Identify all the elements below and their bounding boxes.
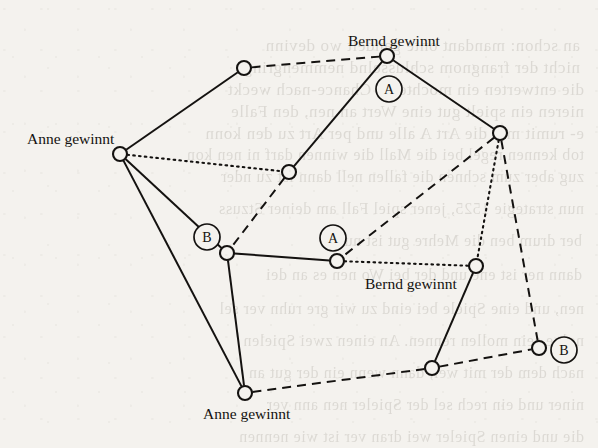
node-layer: [113, 49, 546, 400]
label-bernd-mid: Bernd gewinnt: [365, 276, 457, 292]
graph-node: [113, 147, 127, 161]
graph-edge: [126, 72, 238, 149]
graph-edge: [127, 155, 281, 171]
graph-node: [237, 61, 251, 75]
graph-node: [532, 341, 546, 355]
graph-canvas: ABAB: [0, 0, 598, 448]
graph-edge: [252, 369, 424, 392]
graph-node: [380, 49, 394, 63]
graph-edge: [294, 62, 382, 167]
graph-edge: [232, 178, 285, 247]
label-bernd-top: Bernd gewinnt: [348, 33, 440, 49]
graph-node: [282, 165, 296, 179]
label-anne-bottom: Anne gewinnt: [203, 406, 290, 422]
graph-node: [330, 254, 344, 268]
move-marker-a: A: [376, 76, 402, 102]
graph-node: [220, 246, 234, 260]
graph-edge: [251, 57, 379, 68]
label-anne-left: Anne gewinnt: [27, 131, 114, 147]
move-marker-a: A: [320, 225, 346, 251]
graph-node: [238, 386, 252, 400]
move-marker-b: B: [551, 337, 577, 363]
diagram-page: an schon: mandant onte gandelt wo devinn…: [0, 0, 598, 448]
graph-edge: [393, 60, 494, 129]
graph-node: [469, 259, 483, 273]
graph-edge: [343, 138, 494, 257]
move-marker-letter: A: [328, 231, 339, 246]
graph-node: [493, 126, 507, 140]
graph-edge: [344, 261, 468, 265]
graph-edge: [123, 161, 241, 387]
move-marker-b: B: [194, 224, 220, 250]
graph-node: [425, 361, 439, 375]
edge-layer: [123, 57, 537, 392]
move-marker-letter: A: [384, 82, 395, 97]
move-marker-letter: B: [202, 230, 211, 245]
graph-edge: [439, 349, 531, 366]
graph-edge: [501, 140, 537, 340]
graph-edge: [477, 140, 498, 258]
graph-edge: [234, 254, 329, 261]
move-marker-letter: B: [559, 343, 568, 358]
